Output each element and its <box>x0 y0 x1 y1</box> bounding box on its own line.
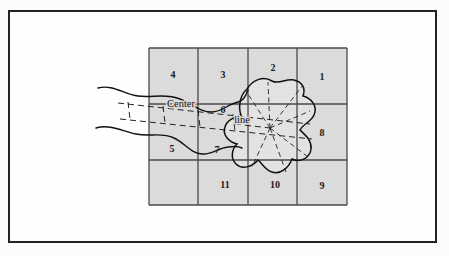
cell-number-label: 1 <box>320 71 325 82</box>
figure-root: 4321567811109 CenterCenterlineline <box>0 0 449 256</box>
center-label: Center <box>167 98 195 109</box>
cell-number-label: 10 <box>270 179 280 190</box>
cell-number-label: 11 <box>220 179 229 190</box>
cell-number-label: 7 <box>215 144 220 155</box>
cell-number-label: 3 <box>221 69 226 80</box>
line-label: line <box>234 114 250 125</box>
grid-cell <box>149 160 198 205</box>
figure-canvas: 4321567811109 CenterCenterlineline <box>0 0 449 256</box>
cell-number-label: 6 <box>221 104 226 115</box>
cell-number-label: 5 <box>170 143 175 154</box>
cell-number-label: 8 <box>320 127 325 138</box>
cell-number-label: 4 <box>171 69 176 80</box>
figure-stage: 4321567811109 CenterCenterlineline <box>0 0 449 256</box>
cell-number-label: 2 <box>271 62 276 73</box>
cell-number-label: 9 <box>320 180 325 191</box>
